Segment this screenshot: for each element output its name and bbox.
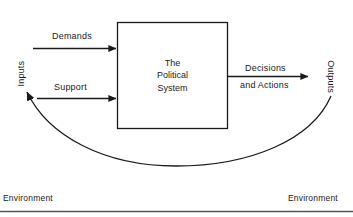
demands-label: Demands [52, 31, 92, 42]
box-label-line-3: System [157, 82, 187, 94]
outputs-axis-label: Outputs [324, 54, 335, 100]
political-system-diagram: The Political System Demands Support Inp… [0, 0, 353, 217]
environment-label-right: Environment [288, 193, 338, 204]
box-label-line-1: The [165, 57, 181, 69]
political-system-box-label: The Political System [117, 22, 228, 129]
environment-label-left: Environment [3, 193, 53, 204]
support-label: Support [54, 82, 87, 93]
decisions-label: Decisions [245, 63, 286, 74]
box-label-line-2: Political [157, 69, 188, 81]
actions-label: and Actions [240, 80, 289, 91]
inputs-axis-label: Inputs [16, 51, 27, 97]
